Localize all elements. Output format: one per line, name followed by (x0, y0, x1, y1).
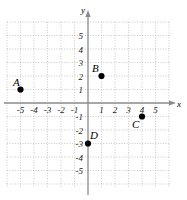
point-label-d: D (89, 129, 98, 141)
x-tick-label: 3 (125, 105, 131, 115)
point-label-c: C (132, 118, 140, 130)
point-marker-d[interactable] (85, 140, 91, 146)
x-tick-label: -3 (44, 105, 52, 115)
y-tick-label: 3 (78, 58, 84, 68)
x-tick-label: 5 (153, 105, 158, 115)
y-tick-label: -2 (76, 126, 84, 136)
x-tick-label: 2 (113, 105, 118, 115)
y-tick-label: -1 (76, 112, 84, 122)
point-label-b: B (92, 62, 99, 74)
y-tick-label: 1 (79, 85, 84, 95)
y-tick-label: 4 (79, 45, 84, 55)
y-tick-label: 5 (79, 31, 84, 41)
x-axis-arrowhead (169, 100, 176, 105)
y-axis-arrowhead (85, 10, 90, 17)
x-tick-label: 1 (99, 105, 104, 115)
point-marker-c[interactable] (139, 113, 145, 119)
x-axis-label: x (176, 99, 181, 109)
point-label-a: A (12, 76, 20, 88)
y-tick-label: -4 (76, 153, 84, 163)
y-tick-label: -3 (76, 139, 84, 149)
point-marker-b[interactable] (98, 73, 104, 79)
axes (4, 14, 172, 195)
x-tick-label: -5 (17, 105, 25, 115)
y-tick-label: 2 (79, 72, 84, 82)
x-tick-label: -4 (30, 105, 38, 115)
y-axis-label: y (80, 5, 85, 15)
coordinate-plane-figure: x y -5 -4 -3 -2 -1 1 2 3 4 5 5 4 3 2 1 -… (0, 0, 187, 200)
y-tick-label: -5 (76, 166, 84, 176)
coordinate-plane-svg: x y -5 -4 -3 -2 -1 1 2 3 4 5 5 4 3 2 1 -… (0, 0, 187, 200)
x-tick-label: -2 (57, 105, 65, 115)
